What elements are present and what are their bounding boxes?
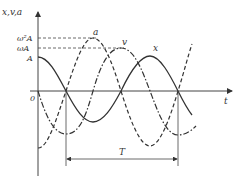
- level-label-omega2A: ω²A: [17, 34, 33, 43]
- curve-label-v: v: [122, 37, 127, 47]
- xva-waveform-diagram: x,v,a t 0 ω²A ωA A a v x T: [0, 0, 240, 186]
- curve-label-a: a: [93, 27, 98, 37]
- x-curve: [38, 56, 192, 122]
- a-curve: [38, 38, 192, 148]
- level-label-omegaA: ωA: [17, 44, 30, 53]
- curve-label-x: x: [153, 43, 158, 53]
- level-label-A: A: [26, 54, 33, 63]
- axis-x-label: t: [224, 96, 228, 106]
- origin-label: 0: [30, 94, 35, 103]
- axis-y-label: x,v,a: [2, 7, 22, 17]
- period-label: T: [119, 147, 126, 157]
